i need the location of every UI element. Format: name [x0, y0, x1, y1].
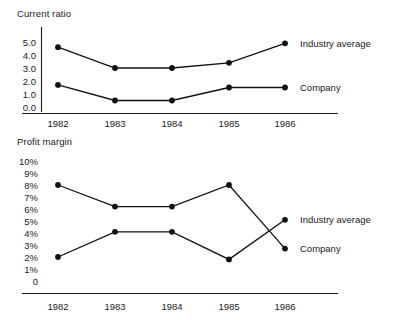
series-label-company: Company [300, 244, 341, 254]
profit-margin-plot [0, 0, 395, 329]
industry-average-line [58, 185, 285, 249]
data-point [226, 257, 232, 263]
x-tick-label: 1983 [90, 302, 140, 312]
series-label-industry-average: Industry average [300, 215, 371, 225]
x-tick-label: 1986 [260, 302, 310, 312]
x-tick-label: 1985 [204, 302, 254, 312]
data-point [226, 182, 232, 188]
data-point [55, 182, 61, 188]
x-tick-label: 1982 [33, 302, 83, 312]
data-point [282, 246, 288, 252]
data-point [112, 204, 118, 210]
data-point [169, 229, 175, 235]
x-tick-label: 1984 [147, 302, 197, 312]
data-point [282, 217, 288, 223]
data-point [112, 229, 118, 235]
data-point [169, 204, 175, 210]
company-line [58, 220, 285, 260]
data-point [55, 254, 61, 260]
